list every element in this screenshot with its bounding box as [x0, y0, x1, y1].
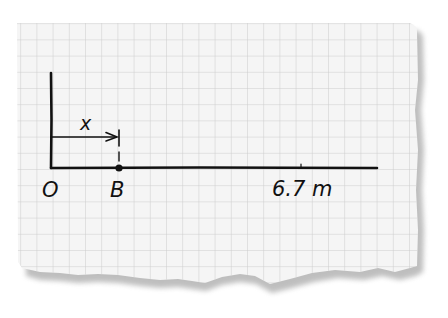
end-distance-label: 6.7 m	[272, 177, 333, 201]
point-b-label: B	[110, 178, 124, 202]
graph-paper-diagram: x O B 6.7 m	[0, 0, 448, 318]
vertical-axis	[51, 73, 52, 168]
point-b-marker	[115, 164, 122, 171]
horizontal-axis	[51, 168, 377, 169]
distance-label: x	[79, 112, 92, 134]
origin-label: O	[42, 178, 59, 202]
